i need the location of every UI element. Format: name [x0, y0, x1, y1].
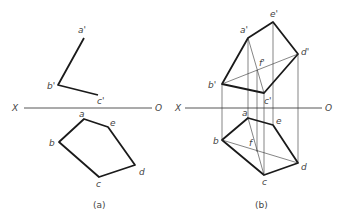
label-b-prime-a: b' — [47, 81, 55, 91]
diagonal-b-d — [222, 140, 298, 163]
label-a-b: a — [242, 108, 248, 118]
label-c-prime-a: c' — [97, 96, 104, 106]
caption-b: (b) — [255, 200, 268, 210]
axis-x-label-b: X — [174, 103, 182, 113]
label-e-prime-b: e' — [270, 9, 278, 19]
top-view-polygon-b — [222, 118, 298, 175]
label-f-b: f — [249, 138, 254, 148]
label-a-a: a — [79, 109, 85, 119]
axis-o-label-a: O — [155, 103, 162, 113]
label-d-prime-b: d' — [301, 47, 309, 57]
front-view-polyline-a — [58, 38, 98, 95]
axis-o-label-b: O — [325, 103, 332, 113]
projection-diagram: X O a' b' c' a e b d c (a) X O a' e' — [0, 0, 342, 223]
figure-b: X O a' e' d' f' b' c' a e b f d c (b) — [174, 9, 332, 210]
label-b-a: b — [49, 138, 55, 148]
figure-a: X O a' b' c' a e b d c (a) — [11, 25, 162, 210]
label-e-b: e — [276, 116, 282, 126]
label-b-prime-b: b' — [208, 80, 216, 90]
label-a-prime-b: a' — [240, 25, 248, 35]
label-c-b: c — [262, 177, 267, 187]
label-d-a: d — [139, 167, 145, 177]
label-c-a: c — [96, 179, 101, 189]
caption-a: (a) — [93, 200, 106, 210]
label-f-prime-b: f' — [259, 58, 265, 68]
projection-lines — [222, 22, 298, 175]
top-view-polygon-a — [59, 119, 135, 177]
label-d-b: d — [301, 162, 307, 172]
label-a-prime-a: a' — [78, 25, 86, 35]
axis-x-label-a: X — [11, 103, 19, 113]
label-c-prime-b: c' — [264, 96, 271, 106]
label-b-b: b — [213, 136, 219, 146]
label-e-a: e — [110, 118, 116, 128]
